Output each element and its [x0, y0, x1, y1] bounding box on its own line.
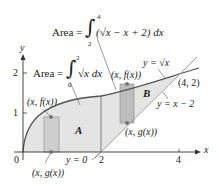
formula-top-upper: 4	[97, 14, 101, 21]
region-a-label: A	[75, 125, 82, 136]
label-intersection: (4, 2)	[178, 78, 200, 88]
y-axis-arrow	[21, 54, 26, 60]
formula-left-integrand: √x dx	[78, 68, 102, 79]
label-fA: (x, f(x))	[27, 97, 57, 107]
label-gA: (x, g(x))	[32, 168, 64, 178]
y-tick-label-1: 1	[13, 108, 18, 118]
region-b-label: B	[143, 88, 150, 99]
formula-top-lower: 2	[88, 41, 92, 48]
label-gB: (x, g(x))	[125, 127, 157, 137]
leader-top-formula	[97, 38, 116, 90]
x-tick-label-4: 4	[176, 155, 181, 165]
point-gB	[125, 121, 129, 125]
formula-left-upper: 2	[76, 55, 80, 62]
x-axis-label: x	[204, 145, 208, 155]
y-axis-label: y	[20, 43, 24, 53]
x-tick-label-0: 0	[14, 155, 19, 165]
integral-sign-top: ∫	[85, 17, 95, 37]
formula-top-lhs: Area =	[52, 27, 82, 38]
x-axis-arrow	[195, 150, 201, 155]
x-tick-label-2: 2	[99, 155, 104, 165]
formula-left-lower: 0	[68, 82, 72, 89]
label-line: y = x − 2	[157, 99, 194, 109]
label-sqrt-curve: y = √x	[143, 58, 169, 68]
label-fB: (x, f(x))	[111, 70, 141, 80]
formula-top-integrand: (√x − x + 2) dx	[96, 27, 164, 38]
label-y-zero: y = 0	[66, 155, 87, 165]
integral-sign-left: ∫	[66, 58, 76, 78]
formula-left-lhs: Area =	[33, 68, 63, 79]
leader-gA	[45, 154, 50, 163]
y-tick-label-2: 2	[13, 68, 18, 78]
rectangle-a	[44, 117, 59, 152]
leader-sqrt-label	[158, 69, 165, 78]
point-gA	[49, 150, 53, 154]
point-fB	[125, 82, 129, 86]
